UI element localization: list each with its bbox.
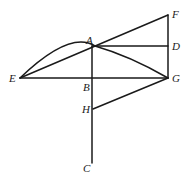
label-E: E (8, 72, 16, 84)
segment-HG (93, 78, 168, 109)
label-C: C (83, 162, 91, 174)
label-H: H (81, 103, 91, 115)
label-F: F (171, 8, 179, 20)
label-A: A (85, 34, 93, 46)
label-B: B (83, 81, 90, 93)
geometry-diagram: A B C D E F G H (0, 0, 193, 178)
label-G: G (172, 72, 180, 84)
label-D: D (171, 40, 180, 52)
arc-EAG (20, 42, 168, 78)
